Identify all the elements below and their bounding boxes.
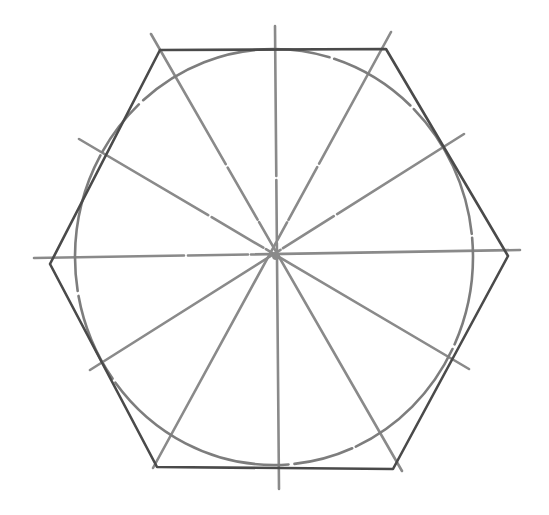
center-point — [272, 252, 280, 260]
sketch-canvas — [0, 0, 549, 515]
